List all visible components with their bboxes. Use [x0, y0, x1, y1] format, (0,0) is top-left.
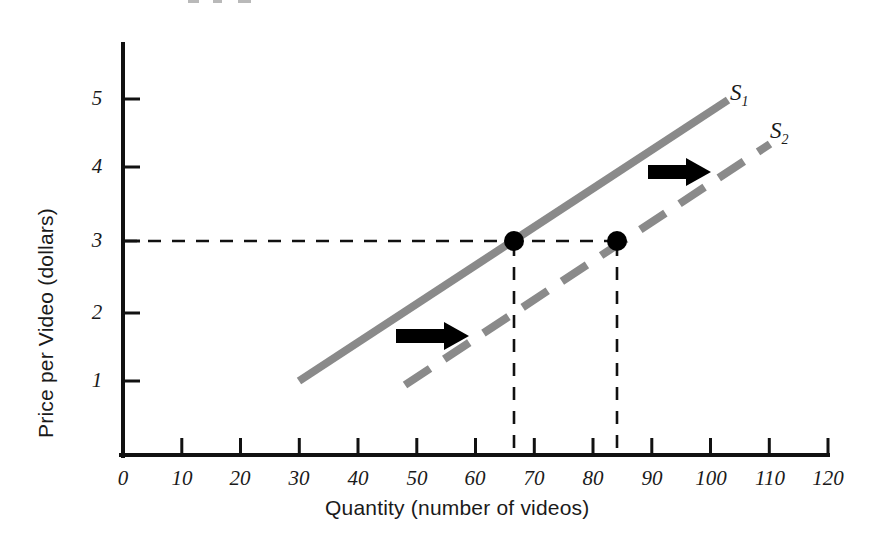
x-axis-title: Quantity (number of videos) [325, 496, 590, 520]
curve-label-s1-subscript: 1 [742, 94, 749, 109]
x-tick-label-0: 0 [105, 466, 141, 491]
curve-label-s2: S2 [770, 118, 789, 148]
x-tick-label-40: 40 [340, 466, 376, 491]
guide-lines [124, 241, 618, 455]
x-tick-label-30: 30 [281, 466, 317, 491]
y-tick-label-4: 4 [86, 154, 108, 179]
x-tick-label-100: 100 [689, 466, 733, 491]
x-tick-label-50: 50 [399, 466, 435, 491]
supply-curve-figure: 5 4 3 2 1 0 10 20 30 40 50 60 70 80 90 1… [0, 0, 878, 549]
y-tick-label-5: 5 [86, 86, 108, 111]
x-tick-label-20: 20 [222, 466, 258, 491]
equilibrium-s1-dot [504, 231, 524, 251]
curve-label-s1: S1 [730, 80, 749, 110]
x-tick-label-120: 120 [806, 466, 850, 491]
x-tick-label-80: 80 [575, 466, 611, 491]
curve-label-s2-text: S [770, 118, 782, 143]
x-tick-label-90: 90 [634, 466, 670, 491]
y-axis-title: Price per Video (dollars) [34, 208, 58, 438]
equilibrium-s2-dot [607, 231, 627, 251]
x-tick-label-60: 60 [457, 466, 493, 491]
curve-label-s1-text: S [730, 80, 742, 105]
y-tick-label-2: 2 [86, 300, 108, 325]
x-tick-label-10: 10 [164, 466, 200, 491]
x-tick-label-70: 70 [516, 466, 552, 491]
curve-label-s2-subscript: 2 [782, 132, 789, 147]
y-tick-label-1: 1 [86, 368, 108, 393]
supply-curve-s2 [405, 144, 770, 385]
x-tick-label-110: 110 [748, 466, 792, 491]
shift-annotations [396, 158, 711, 350]
x-axis-ticks [123, 438, 828, 455]
shift-arrow-upper [648, 158, 711, 186]
y-tick-label-3: 3 [86, 228, 108, 253]
